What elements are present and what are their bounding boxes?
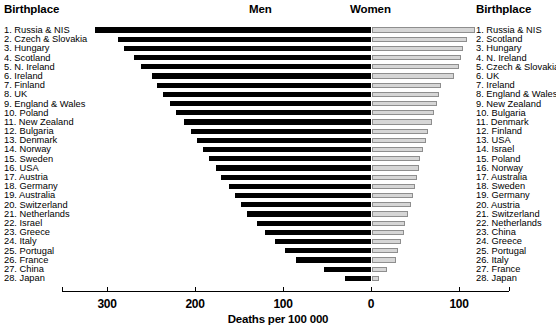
x-tick-label-3: 0 [368,297,374,311]
bar-men-27 [324,267,371,272]
chart-row [0,146,556,155]
bar-men-21 [247,211,371,216]
bar-women-14 [372,147,423,152]
x-tick-3 [371,287,372,291]
bar-women-28 [372,276,379,281]
bar-women-3 [372,46,463,51]
plot-area [0,26,556,291]
bar-women-26 [372,257,396,262]
chart-row [0,136,556,145]
chart-row [0,44,556,53]
chart-row [0,155,556,164]
bar-women-9 [372,101,437,106]
bar-women-2 [372,37,467,42]
x-axis-line [62,291,509,292]
chart-row [0,35,556,44]
chart-row [0,127,556,136]
bar-men-14 [203,147,371,152]
chart-row [0,256,556,265]
bar-men-9 [170,101,371,106]
chart-row [0,81,556,90]
x-tick-0 [107,287,108,291]
bar-women-11 [372,119,432,124]
bar-men-26 [296,257,371,262]
bar-men-5 [141,64,371,69]
bar-men-19 [235,193,371,198]
chart-row [0,219,556,228]
bar-women-20 [372,202,411,207]
bar-men-23 [265,230,371,235]
bar-men-16 [216,165,371,170]
header-women: Women [350,3,391,15]
x-tick-label-0: 300 [97,297,116,311]
chart-row [0,72,556,81]
chart-row [0,228,556,237]
bar-men-3 [124,46,371,51]
chart-row [0,247,556,256]
bar-women-24 [372,239,401,244]
bar-women-10 [372,110,434,115]
bar-men-8 [163,92,371,97]
chart-row [0,100,556,109]
chart-root: Birthplace Men Women Birthplace 1. Russi… [0,0,556,329]
bar-men-22 [257,221,371,226]
bar-women-8 [372,92,439,97]
chart-row [0,274,556,283]
chart-row [0,26,556,35]
bar-women-4 [372,55,461,60]
bar-men-28 [345,276,371,281]
header-right-birthplace: Birthplace [476,3,531,15]
bar-women-21 [372,211,408,216]
bar-women-27 [372,267,387,272]
chart-row [0,118,556,127]
bar-men-24 [275,239,371,244]
bar-women-6 [372,73,454,78]
x-axis-endcap-0 [62,287,63,291]
chart-row [0,173,556,182]
chart-row [0,164,556,173]
x-tick-4 [459,287,460,291]
header-left-birthplace: Birthplace [4,3,59,15]
x-axis-endcap-1 [509,287,510,291]
bar-women-23 [372,230,404,235]
bar-men-15 [209,156,371,161]
bar-women-1 [372,27,475,32]
bar-women-19 [372,193,413,198]
bar-men-7 [157,83,371,88]
x-tick-1 [195,287,196,291]
x-tick-label-1: 200 [185,297,204,311]
chart-row [0,238,556,247]
chart-row [0,90,556,99]
chart-row [0,63,556,72]
bar-women-5 [372,64,459,69]
bar-women-18 [372,184,415,189]
x-tick-label-2: 100 [273,297,292,311]
bar-men-11 [184,119,371,124]
bar-men-18 [229,184,371,189]
chart-row [0,265,556,274]
bar-women-17 [372,175,417,180]
bar-men-17 [221,175,371,180]
bar-women-13 [372,138,426,143]
bar-women-7 [372,83,441,88]
bar-men-20 [241,202,371,207]
bar-women-15 [372,156,420,161]
bar-men-6 [152,73,371,78]
bar-men-12 [191,129,371,134]
bar-men-2 [118,37,371,42]
bar-men-25 [285,248,371,253]
bar-men-4 [134,55,371,60]
bar-women-12 [372,129,428,134]
chart-row [0,109,556,118]
bar-men-10 [176,110,371,115]
chart-row [0,54,556,63]
x-tick-label-4: 100 [449,297,468,311]
bar-men-1 [95,27,371,32]
chart-row [0,201,556,210]
bar-women-22 [372,221,405,226]
header-men: Men [249,3,272,15]
x-tick-2 [283,287,284,291]
bar-women-16 [372,165,419,170]
x-axis-title: Deaths per 100 000 [0,313,556,325]
chart-row [0,192,556,201]
